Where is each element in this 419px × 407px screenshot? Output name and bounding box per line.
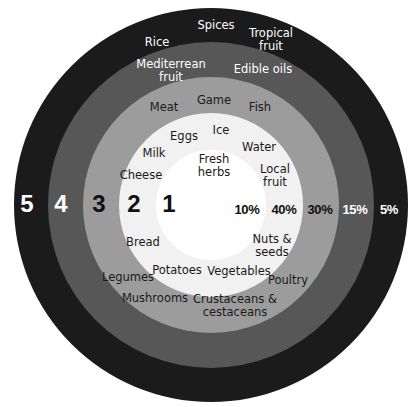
label-meat: Meat: [150, 101, 179, 114]
label-tropical-fruit-line2: fruit: [249, 40, 293, 53]
label-fresh-herbs: Fresh herbs: [198, 153, 230, 179]
level-number-1: 1: [162, 190, 175, 218]
label-crustaceans: Crustaceans & cestaceans: [193, 293, 277, 319]
percent-level-5: 5%: [380, 202, 398, 217]
label-mediterrean-fruit: Mediterrean fruit: [136, 58, 206, 84]
level-number-5: 5: [20, 190, 33, 218]
label-mushrooms: Mushrooms: [122, 292, 188, 305]
label-spices: Spices: [197, 19, 234, 32]
label-crustaceans-line2: cestaceans: [193, 306, 277, 319]
label-milk: Milk: [143, 147, 166, 160]
label-local-fruit-line2: fruit: [260, 176, 290, 189]
label-water: Water: [242, 141, 276, 154]
label-cheese: Cheese: [120, 169, 163, 182]
label-legumes: Legumes: [102, 271, 154, 284]
percent-level-4: 15%: [342, 202, 367, 217]
label-ice: Ice: [213, 124, 230, 137]
label-bread: Bread: [126, 236, 160, 249]
label-poultry: Poultry: [268, 274, 308, 287]
label-nuts-seeds-line2: seeds: [252, 246, 291, 259]
label-rice: Rice: [145, 36, 170, 49]
label-vegetables: Vegetables: [207, 265, 271, 278]
level-number-3: 3: [92, 190, 105, 218]
label-nuts-seeds: Nuts & seeds: [252, 233, 291, 259]
label-edible-oils: Edible oils: [234, 63, 292, 76]
level-number-4: 4: [54, 190, 67, 218]
label-fish: Fish: [249, 101, 271, 114]
percent-level-1: 10%: [234, 202, 259, 217]
percent-level-2: 40%: [271, 202, 296, 217]
level-number-2: 2: [127, 190, 140, 218]
label-eggs: Eggs: [170, 130, 198, 143]
percent-level-3: 30%: [307, 202, 332, 217]
label-tropical-fruit: Tropical fruit: [249, 27, 293, 53]
label-fresh-herbs-line2: herbs: [198, 166, 230, 179]
label-game: Game: [197, 94, 231, 107]
label-mediterrean-fruit-line2: fruit: [136, 71, 206, 84]
label-potatoes: Potatoes: [152, 264, 202, 277]
label-local-fruit: Local fruit: [260, 163, 290, 189]
